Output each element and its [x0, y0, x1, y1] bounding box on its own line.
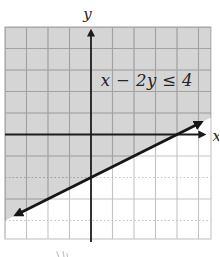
inequality-annotation: x − 2y ≤ 4: [101, 71, 193, 90]
figure-canvas: y x x − 2y ≤ 4: [0, 0, 219, 257]
y-axis-label: y: [82, 5, 92, 23]
inequality-graph: y x x − 2y ≤ 4: [0, 0, 219, 257]
x-axis-label: x: [213, 127, 220, 145]
